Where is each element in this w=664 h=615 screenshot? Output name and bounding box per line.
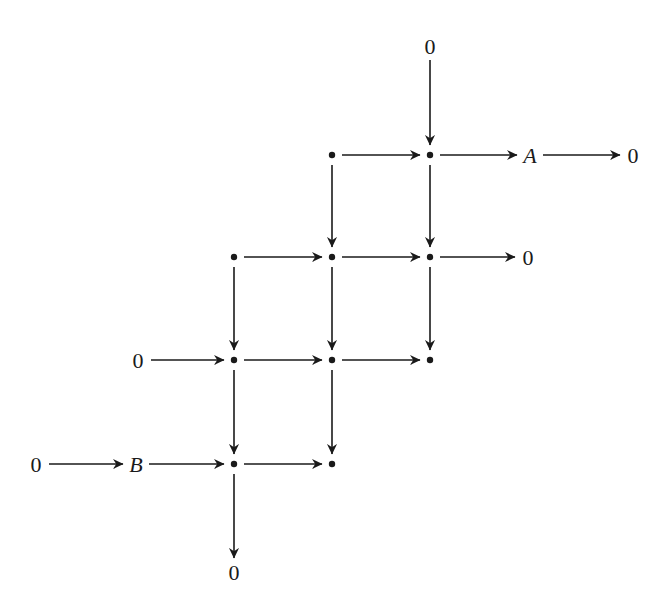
object-B: B — [129, 452, 142, 477]
zero-object-z_A: 0 — [628, 143, 639, 168]
arrows-layer — [49, 60, 620, 558]
zero-object-z_top: 0 — [425, 34, 436, 59]
zero-object-z_B: 0 — [31, 452, 42, 477]
nodes-layer: 0A0000B0 — [31, 34, 639, 585]
bullet-node-r1c2 — [329, 152, 335, 158]
bullet-node-r1c3 — [427, 152, 433, 158]
zero-object-z_r3: 0 — [133, 348, 144, 373]
bullet-node-r2c2 — [329, 254, 335, 260]
zero-object-z_bottom: 0 — [229, 560, 240, 585]
bullet-node-r3c2 — [329, 357, 335, 363]
bullet-node-r3c3 — [427, 357, 433, 363]
bullet-node-r4c1 — [231, 461, 237, 467]
bullet-node-r4c2 — [329, 461, 335, 467]
bullet-node-r2c1 — [231, 254, 237, 260]
bullet-node-r2c3 — [427, 254, 433, 260]
zero-object-z_r2: 0 — [523, 245, 534, 270]
object-A: A — [521, 143, 537, 168]
commutative-diagram: 0A0000B0 — [0, 0, 664, 615]
bullet-node-r3c1 — [231, 357, 237, 363]
